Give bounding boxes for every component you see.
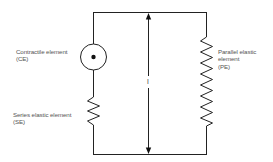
series-elastic-element-abbr: (SE) [13,118,71,125]
parallel-elastic-element-name: Parallel elastic [218,48,256,55]
parallel-elastic-element-name-line2: element [218,55,256,62]
muscle-model-diagram [0,0,273,162]
length-label: l [146,77,150,86]
series-elastic-element-name: Series elastic element [13,111,71,118]
contractile-element-center-dot [91,55,95,59]
parallel-elastic-element-label: Parallel elastic element (PE) [218,48,256,70]
parallel-elastic-element-icon [201,36,213,127]
parallel-elastic-element-abbr: (PE) [218,63,256,70]
contractile-element-name: Contractile element [16,48,67,55]
contractile-element-label: Contractile element (CE) [16,48,67,63]
series-elastic-element-icon [88,96,100,126]
length-arrow-head-up-icon [146,13,151,20]
contractile-element-abbr: (CE) [16,55,67,62]
length-arrow-head-down-icon [146,148,151,155]
series-elastic-element-label: Series elastic element (SE) [13,111,71,126]
